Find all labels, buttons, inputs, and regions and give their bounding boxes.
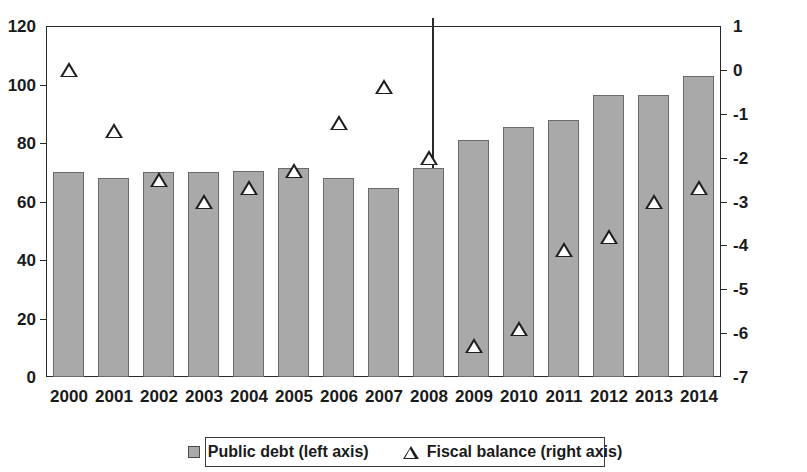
bar <box>413 168 444 377</box>
left-axis-tick-label: 20 <box>2 311 36 328</box>
triangle-marker <box>555 242 573 257</box>
bar <box>638 95 669 377</box>
triangle-marker-fill <box>378 83 390 93</box>
left-axis-tick <box>40 85 46 86</box>
right-axis-tick <box>721 158 727 159</box>
triangle-marker <box>645 194 663 209</box>
triangle-marker <box>240 180 258 195</box>
right-axis-tick-label: -3 <box>733 194 748 211</box>
left-axis-tick-label: 40 <box>2 252 36 269</box>
right-axis-tick-label: 1 <box>733 18 742 35</box>
left-axis-tick <box>40 143 46 144</box>
right-axis-tick <box>721 333 727 334</box>
triangle-marker-fill <box>63 66 75 76</box>
triangle-icon <box>403 446 419 459</box>
left-axis-tick <box>40 202 46 203</box>
right-axis-tick-label: -5 <box>733 281 748 298</box>
triangle-marker <box>60 62 78 77</box>
right-axis-tick-label: -1 <box>733 106 748 123</box>
chart-legend: Public debt (left axis) Fiscal balance (… <box>205 437 605 467</box>
triangle-marker <box>420 150 438 165</box>
bar <box>233 171 264 377</box>
x-axis-tick-label: 2014 <box>669 387 729 407</box>
bar <box>98 178 129 377</box>
right-axis-tick-label: -7 <box>733 369 748 386</box>
right-axis-tick-label: -6 <box>733 325 748 342</box>
right-axis-tick-label: -2 <box>733 150 748 167</box>
triangle-marker-fill <box>243 184 255 194</box>
left-axis-tick <box>40 319 46 320</box>
triangle-marker <box>285 163 303 178</box>
triangle-marker <box>105 123 123 138</box>
triangle-marker-fill <box>558 246 570 256</box>
triangle-marker-fill <box>198 198 210 208</box>
bar <box>143 172 174 377</box>
left-axis-tick-label: 120 <box>2 18 36 35</box>
legend-item-public-debt: Public debt (left axis) <box>188 443 369 461</box>
right-axis-tick <box>721 70 727 71</box>
bar <box>278 168 309 377</box>
triangle-marker-fill <box>513 325 525 335</box>
triangle-marker-fill <box>333 119 345 129</box>
triangle-marker-fill <box>108 127 120 137</box>
bar <box>683 76 714 377</box>
legend-label-public-debt: Public debt (left axis) <box>208 443 369 461</box>
triangle-marker <box>510 321 528 336</box>
right-axis-tick <box>721 202 727 203</box>
right-axis-tick-label: 0 <box>733 62 742 79</box>
triangle-marker-fill <box>423 154 435 164</box>
bar <box>503 127 534 377</box>
right-axis-tick <box>721 245 727 246</box>
bar <box>53 172 84 377</box>
triangle-marker <box>690 180 708 195</box>
right-axis-tick-label: -4 <box>733 237 748 254</box>
triangle-marker <box>465 338 483 353</box>
triangle-marker-fill <box>153 176 165 186</box>
right-axis-tick <box>721 114 727 115</box>
right-axis-tick <box>721 289 727 290</box>
left-axis-tick-label: 60 <box>2 194 36 211</box>
triangle-marker <box>375 79 393 94</box>
triangle-marker-fill <box>648 198 660 208</box>
triangle-marker-fill <box>693 184 705 194</box>
bar <box>368 188 399 377</box>
bar <box>323 178 354 377</box>
legend-label-fiscal-balance: Fiscal balance (right axis) <box>427 443 623 461</box>
chart-container: 020406080100120 10-1-2-3-4-5-6-7 2000200… <box>0 0 807 472</box>
left-axis-tick-label: 100 <box>2 77 36 94</box>
triangle-marker <box>195 194 213 209</box>
square-icon <box>188 446 200 458</box>
triangle-marker-fill <box>603 233 615 243</box>
legend-item-fiscal-balance: Fiscal balance (right axis) <box>403 443 623 461</box>
triangle-marker <box>150 172 168 187</box>
triangle-marker-fill <box>468 342 480 352</box>
left-axis-tick-label: 0 <box>2 369 36 386</box>
left-axis-tick-label: 80 <box>2 135 36 152</box>
triangle-marker-fill <box>288 167 300 177</box>
triangle-marker <box>330 115 348 130</box>
left-axis-tick <box>40 260 46 261</box>
triangle-marker <box>600 229 618 244</box>
